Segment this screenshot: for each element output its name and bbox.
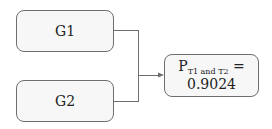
node-result: PT1 and T2 = 0.9024	[164, 54, 259, 97]
result-value: 0.9024	[187, 77, 236, 92]
result-probability-label: PT1 and T2 =	[178, 59, 245, 76]
